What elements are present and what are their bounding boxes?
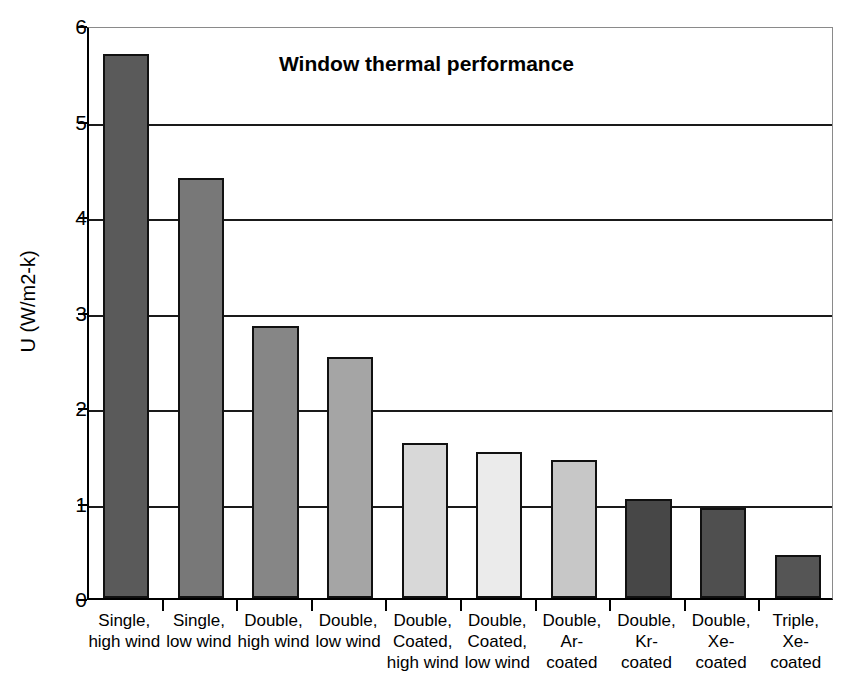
- x-tick-label: Single,low wind: [159, 610, 240, 652]
- x-tick-label-line: Double,: [681, 610, 762, 631]
- x-tick-label-line: Kr-: [606, 631, 687, 652]
- y-tick-mark: [78, 217, 87, 219]
- x-tick-label: Double,Coated,low wind: [457, 610, 538, 673]
- x-tick-label-line: low wind: [308, 631, 389, 652]
- x-tick-label: Double,low wind: [308, 610, 389, 652]
- x-tick-label: Single,high wind: [84, 610, 165, 652]
- x-tick-label-line: Double,: [606, 610, 687, 631]
- bar: [327, 357, 373, 598]
- bar: [700, 508, 746, 598]
- y-tick-mark: [78, 599, 87, 601]
- x-tick-label: Double,Coated,high wind: [382, 610, 463, 673]
- y-tick-mark: [78, 504, 87, 506]
- bar: [625, 499, 671, 598]
- x-tick-label-line: coated: [606, 652, 687, 673]
- gridline: [89, 124, 832, 126]
- x-tick-label-line: high wind: [233, 631, 314, 652]
- bar: [775, 555, 821, 598]
- x-tick-label: Double,Xe-coated: [681, 610, 762, 673]
- x-tick-label: Double,Kr-coated: [606, 610, 687, 673]
- bar: [551, 460, 597, 598]
- x-tick-label-line: Double,: [308, 610, 389, 631]
- x-tick-label-line: Triple,: [755, 610, 836, 631]
- x-tick-label-line: Double,: [382, 610, 463, 631]
- x-tick-label-line: Single,: [159, 610, 240, 631]
- x-tick-label-line: low wind: [457, 652, 538, 673]
- chart-figure: U (W/m2-k) Window thermal performance 01…: [0, 0, 853, 684]
- y-tick-mark: [78, 408, 87, 410]
- y-tick-mark: [78, 26, 87, 28]
- x-tick-label-line: high wind: [382, 652, 463, 673]
- bar: [252, 326, 298, 598]
- x-tick-label-line: coated: [681, 652, 762, 673]
- bar: [178, 178, 224, 598]
- x-tick-label-line: Double,: [457, 610, 538, 631]
- x-tick-label-line: Ar-: [532, 631, 613, 652]
- x-tick-label: Double,Ar-coated: [532, 610, 613, 673]
- plot-area: [87, 27, 833, 600]
- x-tick-label-line: Double,: [532, 610, 613, 631]
- y-axis-label: U (W/m2-k): [17, 192, 40, 412]
- x-tick-label-line: coated: [532, 652, 613, 673]
- x-tick-label-line: Double,: [233, 610, 314, 631]
- y-tick-mark: [78, 313, 87, 315]
- bar: [103, 54, 149, 598]
- x-tick-label-line: Single,: [84, 610, 165, 631]
- x-tick-label-line: Xe-: [755, 631, 836, 652]
- bar: [476, 452, 522, 598]
- x-tick-label-line: high wind: [84, 631, 165, 652]
- x-tick-label-line: low wind: [159, 631, 240, 652]
- y-tick-mark: [78, 122, 87, 124]
- x-tick-label-line: Coated,: [457, 631, 538, 652]
- x-tick-label-line: coated: [755, 652, 836, 673]
- x-tick-label-line: Coated,: [382, 631, 463, 652]
- x-tick-label: Double,high wind: [233, 610, 314, 652]
- x-tick-label-line: Xe-: [681, 631, 762, 652]
- x-tick-label: Triple,Xe-coated: [755, 610, 836, 673]
- bar: [402, 443, 448, 598]
